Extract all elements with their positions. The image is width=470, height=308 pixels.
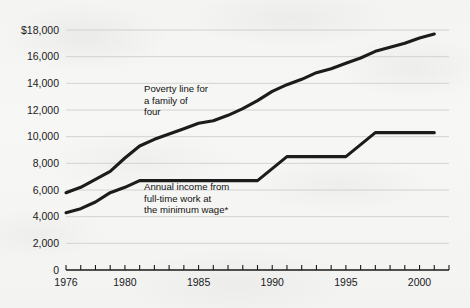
y-axis-tick-label: $18,000: [21, 24, 59, 36]
poverty-line-label: Poverty line fora family offour: [144, 83, 209, 117]
annotation-line: the minimum wage*: [144, 204, 229, 215]
minimum-wage-label: Annual income fromfull-time work atthe m…: [144, 181, 229, 215]
annotation-line: full-time work at: [144, 193, 212, 204]
x-axis-tick-label: 1985: [187, 276, 211, 288]
x-axis-tick-label: 2000: [408, 276, 432, 288]
y-axis-tick-label: 4,000: [33, 210, 59, 222]
y-axis-tick-label: 8,000: [33, 157, 59, 169]
chart-annotations: Poverty line fora family offourAnnual in…: [144, 83, 229, 215]
x-axis-tick-label: 1995: [334, 276, 358, 288]
annotation-line: four: [144, 106, 161, 117]
y-axis-tick-label: 2,000: [33, 237, 59, 249]
x-axis-tick-labels: 197619801985199019952000: [54, 276, 431, 288]
annotation-line: Poverty line for: [144, 83, 209, 94]
x-axis-tick-label: 1976: [54, 276, 78, 288]
y-axis-tick-label: 6,000: [33, 184, 59, 196]
chart-plot-area: 02,0004,0006,0008,00010,00012,00014,0001…: [0, 0, 470, 308]
data-series: [66, 34, 434, 213]
series-line-minimum-wage: [66, 133, 434, 213]
chart-figure: 02,0004,0006,0008,00010,00012,00014,0001…: [0, 0, 470, 308]
y-axis-tick-label: 12,000: [27, 104, 59, 116]
y-axis-tick-label: 14,000: [27, 77, 59, 89]
y-axis-tick-label: 16,000: [27, 50, 59, 62]
x-axis-tick-label: 1990: [261, 276, 285, 288]
y-axis-tick-labels: 02,0004,0006,0008,00010,00012,00014,0001…: [21, 24, 59, 276]
annotation-line: Annual income from: [144, 181, 229, 192]
x-axis-tick-label: 1980: [113, 276, 137, 288]
annotation-line: a family of: [144, 95, 188, 106]
x-axis: [66, 265, 449, 270]
series-line-poverty-line: [66, 34, 434, 193]
y-axis-tick-label: 0: [53, 264, 59, 276]
y-axis-tick-label: 10,000: [27, 130, 59, 142]
gridlines: [66, 30, 449, 243]
